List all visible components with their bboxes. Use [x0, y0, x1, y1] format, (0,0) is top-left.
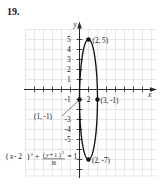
y-tick-label-3: 3	[67, 56, 71, 64]
point-label-bottom-vertex: (2, -7)	[92, 157, 111, 165]
x-tick-label-2: 2	[87, 96, 91, 104]
equation-plus-sign: +	[35, 152, 39, 161]
equation-numerator-variable: y	[45, 152, 49, 158]
point-marker-top-vertex	[86, 37, 90, 41]
y-tick-label-neg5: -5	[65, 136, 71, 144]
y-tick-label-neg3: -3	[65, 116, 71, 124]
equation-equals-one: = 1	[68, 152, 78, 161]
equation: ( x - 2 ) 2 + ( y + 1 ) 2 36 = 1	[6, 151, 78, 166]
point-marker-bottom-vertex	[86, 157, 90, 161]
y-tick-label-neg1: -1	[65, 96, 71, 104]
y-tick-label-5: 5	[67, 36, 71, 44]
y-tick-label-1: 1	[67, 76, 71, 84]
equation-numerator-close: )	[59, 152, 61, 159]
y-tick-label-neg4: -4	[65, 126, 71, 134]
coordinate-plane-svg: y x 5 4 3 2 1 -1 -3 -4 -5 2 (2, 5)	[0, 0, 162, 192]
y-axis-label: y	[73, 20, 78, 29]
axis-arrowheads	[77, 22, 157, 92]
point-label-right-covertex: (3, -1)	[101, 97, 120, 105]
equation-denominator: 36	[51, 160, 57, 166]
figure-page: 19.	[0, 0, 162, 192]
point-marker-right-covertex	[95, 97, 99, 101]
equation-numerator-exponent: 2	[62, 151, 64, 155]
equation-numerator-open: (	[43, 152, 45, 159]
y-tick-label-2: 2	[67, 66, 71, 74]
graph-figure: y x 5 4 3 2 1 -1 -3 -4 -5 2 (2, 5)	[0, 0, 162, 192]
equation-numerator-plus-one: + 1	[50, 152, 58, 158]
x-axis-label: x	[147, 90, 152, 99]
point-label-left-covertex: (1, -1)	[34, 113, 53, 121]
equation-lhs-exponent: 2	[31, 152, 34, 157]
equation-lhs-open: (	[6, 152, 9, 161]
point-label-top-vertex: (2, 5)	[93, 37, 109, 45]
y-tick-label-4: 4	[67, 46, 71, 54]
equation-lhs-minus-two: - 2	[14, 152, 22, 161]
y-axis-arrow-icon	[77, 22, 82, 29]
